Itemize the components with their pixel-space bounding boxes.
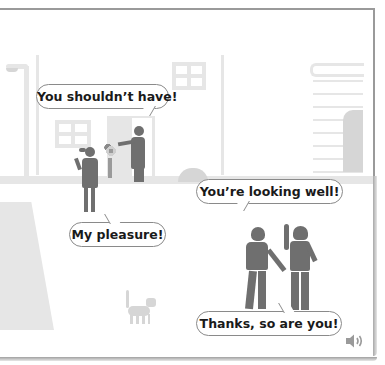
speech-bubble-girl: My pleasure! xyxy=(69,222,166,247)
speech-text: Thanks, so are you! xyxy=(200,316,339,331)
speaker-icon xyxy=(345,333,365,349)
speech-text: You shouldn’t have! xyxy=(37,89,177,104)
building-edge-left xyxy=(36,55,39,175)
frame-right-border xyxy=(373,8,375,176)
girl-arm xyxy=(74,158,82,171)
street-lamp-pole xyxy=(24,66,29,176)
building-edge-right xyxy=(221,55,224,175)
upper-window xyxy=(172,62,206,90)
speech-bubble-right-person: Thanks, so are you! xyxy=(196,311,342,336)
woman-at-door-head xyxy=(134,126,144,136)
girl-ponytail xyxy=(79,148,86,152)
girl-head xyxy=(85,147,95,157)
speech-text: You’re looking well! xyxy=(200,184,340,199)
right-building-cornice xyxy=(310,63,364,77)
flower-stems xyxy=(108,158,112,178)
audio-play-button[interactable] xyxy=(345,333,365,349)
right-building-arch-door xyxy=(343,110,363,172)
speech-bubble-left-person: You’re looking well! xyxy=(196,179,343,204)
street-lamp-head xyxy=(6,68,18,72)
speech-text: My pleasure! xyxy=(72,227,164,242)
lower-window xyxy=(55,120,91,148)
